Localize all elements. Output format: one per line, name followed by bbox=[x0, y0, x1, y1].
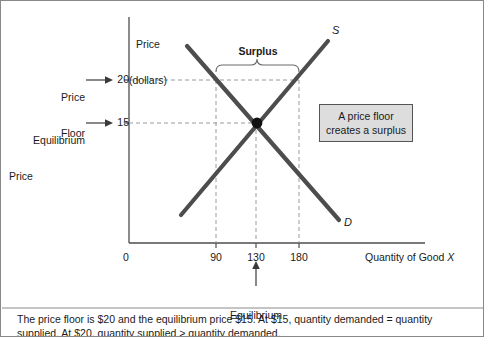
y-tick-label-20: 20 bbox=[114, 73, 129, 85]
equilibrium-price-label-line2: Price bbox=[9, 170, 85, 182]
x-axis-title-good: X bbox=[447, 251, 454, 263]
figure-caption: The price floor is $20 and the equilibri… bbox=[17, 312, 469, 337]
y-tick-label-15: 15 bbox=[114, 116, 129, 128]
price-floor-arrow-head bbox=[105, 76, 113, 84]
surplus-label: Surplus bbox=[217, 45, 299, 57]
price-floor-label-line1: Price bbox=[15, 91, 85, 103]
supply-curve-label: S bbox=[332, 24, 339, 37]
x-tick-label-180: 180 bbox=[287, 251, 311, 263]
x-tick-label-130: 130 bbox=[244, 251, 268, 263]
y-axis-title: Price (dollars) bbox=[113, 14, 183, 111]
callout-line1: A price floor bbox=[326, 109, 406, 123]
origin-label: 0 bbox=[123, 251, 129, 263]
equilibrium-price-arrow-head bbox=[105, 119, 113, 127]
equilibrium-price-label-line1: Equilibrium bbox=[9, 134, 85, 146]
equilibrium-price-label: Equilibrium Price bbox=[9, 110, 85, 207]
callout-line2: creates a surplus bbox=[326, 123, 406, 137]
demand-curve-label: D bbox=[344, 216, 352, 229]
x-tick-label-90: 90 bbox=[204, 251, 228, 263]
price-floor-callout-box: A price floor creates a surplus bbox=[319, 104, 413, 142]
y-axis-title-line1: Price bbox=[113, 38, 183, 50]
equilibrium-point-marker bbox=[252, 118, 263, 129]
surplus-bracket-icon bbox=[216, 59, 299, 72]
price-floor-figure: Price (dollars) 20 15 Price Floor Equili… bbox=[0, 0, 484, 337]
x-axis-title-text: Quantity of Good bbox=[365, 251, 447, 263]
x-axis-title: Quantity of Good X bbox=[365, 251, 454, 263]
demand-curve bbox=[187, 46, 339, 220]
